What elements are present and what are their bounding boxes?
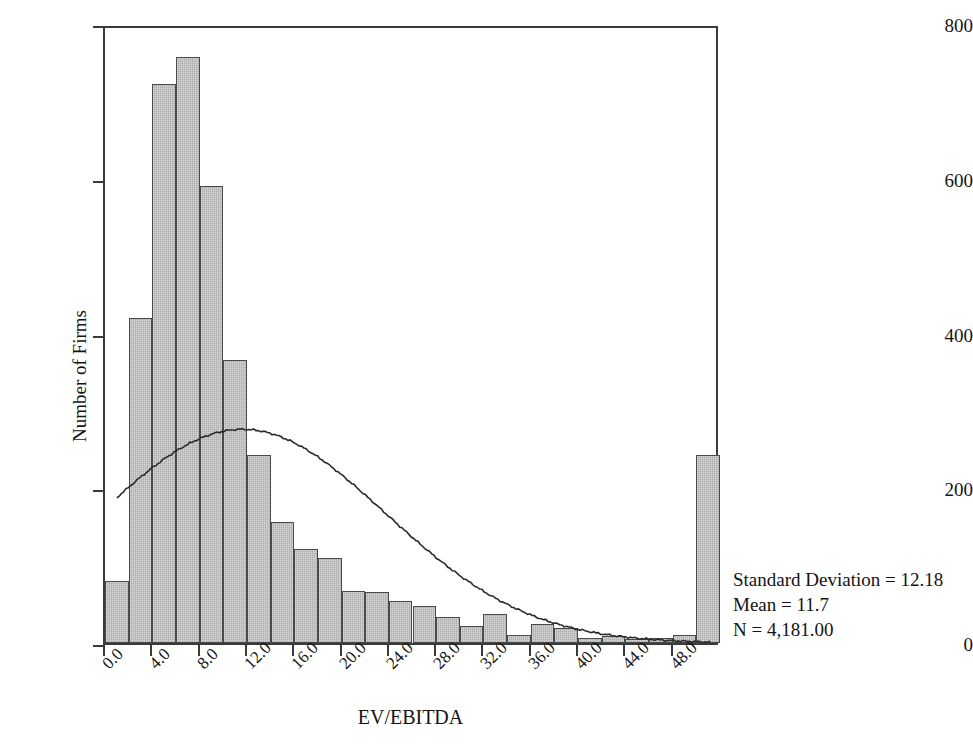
histogram-bar: [460, 626, 484, 643]
statistics-annotation: Standard Deviation = 12.18 Mean = 11.7 N…: [733, 567, 943, 642]
y-axis-tick-label: 600: [887, 171, 973, 190]
y-axis-tick-label: 200: [887, 480, 973, 499]
histogram-bar: [105, 581, 129, 643]
histogram-bar: [247, 455, 271, 643]
y-axis-title: Number of Firms: [69, 310, 91, 442]
histogram-bar: [152, 84, 176, 643]
histogram-bar: [294, 549, 318, 643]
plot-inner: [105, 28, 716, 643]
histogram-bar: [223, 360, 247, 643]
y-axis-tick: [93, 645, 103, 647]
histogram-bar: [649, 638, 673, 643]
histogram-figure: Number of Firms 0200400600800 0.04.08.01…: [0, 0, 973, 752]
histogram-bar: [365, 592, 389, 643]
histogram-bar: [389, 601, 413, 643]
histogram-bar: [507, 635, 531, 643]
histogram-bar: [176, 57, 200, 644]
y-axis-tick: [93, 181, 103, 183]
histogram-bar: [554, 628, 578, 643]
histogram-bar: [129, 318, 153, 643]
histogram-bar: [318, 558, 342, 643]
y-axis-tick: [93, 336, 103, 338]
histogram-bar: [696, 455, 720, 643]
y-axis-tick: [93, 490, 103, 492]
histogram-bar: [271, 522, 295, 643]
y-axis-tick-label: 800: [887, 16, 973, 35]
y-axis-tick-label: 400: [887, 326, 973, 345]
y-axis-tick: [93, 26, 103, 28]
plot-area: [103, 26, 718, 645]
histogram-bar: [200, 186, 224, 643]
histogram-bar: [342, 591, 366, 643]
histogram-bar: [413, 606, 437, 643]
std-dev-text: Standard Deviation = 12.18: [733, 567, 943, 592]
x-axis-title: EV/EBITDA: [103, 706, 718, 729]
histogram-bar: [602, 636, 626, 643]
mean-text: Mean = 11.7: [733, 592, 943, 617]
n-text: N = 4,181.00: [733, 617, 943, 642]
